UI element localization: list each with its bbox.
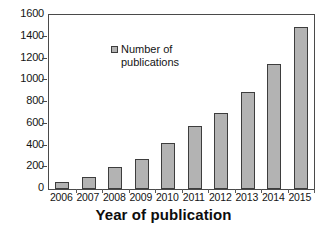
bar (267, 64, 281, 189)
x-tick-label: 2013 (234, 191, 261, 203)
y-tick-mark (42, 79, 47, 80)
x-tick-label: 2012 (207, 191, 234, 203)
y-tick-label: 600 (0, 117, 44, 128)
bar (161, 143, 175, 189)
bar (188, 126, 202, 189)
x-tick-label: 2015 (287, 191, 314, 203)
y-tick-label: 1600 (0, 8, 44, 19)
x-tick-label: 2011 (181, 191, 208, 203)
x-tick-label: 2006 (48, 191, 75, 203)
y-tick-label: 1400 (0, 30, 44, 41)
y-axis: 02004006008001000120014001600 (0, 0, 44, 230)
bar (214, 113, 228, 189)
x-tick-mark (314, 189, 315, 193)
x-axis-title: Year of publication (0, 206, 327, 223)
y-tick-mark (42, 166, 47, 167)
y-tick-mark (42, 36, 47, 37)
legend-swatch-icon (111, 46, 118, 53)
bar (82, 177, 96, 189)
bar (108, 167, 122, 189)
y-tick-label: 200 (0, 160, 44, 171)
bars-layer (49, 15, 314, 189)
x-tick-label: 2008 (101, 191, 128, 203)
legend-label: Number of publications (121, 43, 179, 69)
bar-chart-figure: 02004006008001000120014001600 Number of … (0, 0, 327, 230)
legend: Number of publications (111, 43, 179, 69)
y-tick-label: 0 (0, 182, 44, 193)
y-tick-label: 400 (0, 139, 44, 150)
y-tick-mark (42, 123, 47, 124)
plot-area: Number of publications (48, 14, 315, 190)
x-axis-tick-labels: 2006200720082009201020112012201320142015 (48, 191, 313, 205)
y-tick-mark (42, 145, 47, 146)
y-tick-mark (42, 101, 47, 102)
bar (55, 182, 69, 189)
x-tick-label: 2009 (128, 191, 155, 203)
y-tick-label: 1200 (0, 52, 44, 63)
y-tick-mark (42, 58, 47, 59)
x-tick-label: 2007 (75, 191, 102, 203)
bar (135, 159, 149, 189)
bar (241, 92, 255, 189)
y-tick-label: 800 (0, 95, 44, 106)
bar (294, 27, 308, 189)
y-tick-label: 1000 (0, 73, 44, 84)
x-tick-label: 2014 (260, 191, 287, 203)
x-tick-label: 2010 (154, 191, 181, 203)
